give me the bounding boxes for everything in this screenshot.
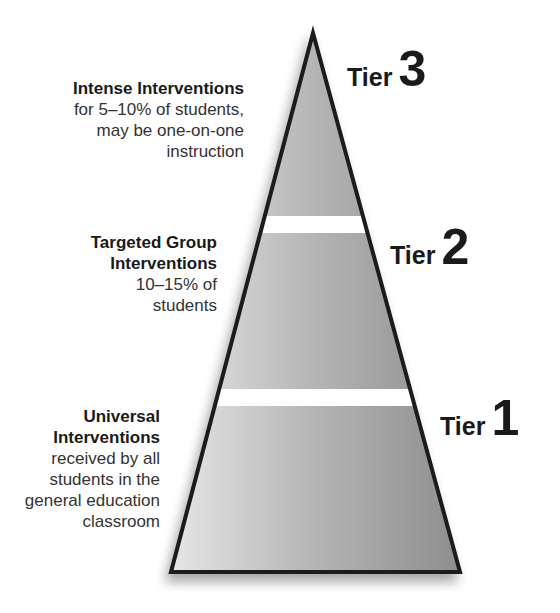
tier-separator-lower [216, 389, 415, 406]
tier2-heading: Interventions [91, 253, 217, 274]
tier3-heading: Intense Interventions [73, 78, 244, 99]
tier2-label: Tier2 [390, 218, 469, 276]
tier-separator-upper [262, 216, 368, 233]
tier3-body-line: may be one-on-one [73, 120, 244, 141]
tier1-number: 1 [491, 390, 519, 446]
tier3-body-line: for 5–10% of students, [73, 99, 244, 120]
tier2-heading: Targeted Group [91, 232, 217, 253]
tier1-body-line: received by all [25, 448, 160, 469]
tier1-heading: Interventions [25, 427, 160, 448]
tier1-heading: Universal [25, 406, 160, 427]
tier1-label: Tier1 [440, 389, 519, 447]
tier1-body-line: general education [25, 490, 160, 511]
tier3-number: 3 [398, 41, 426, 97]
tier2-description: Targeted Group Interventions 10–15% of s… [91, 232, 217, 316]
tier1-body-line: students in the [25, 469, 160, 490]
tier2-body-line: students [91, 295, 217, 316]
tier3-label: Tier3 [347, 40, 426, 98]
tier2-body-line: 10–15% of [91, 274, 217, 295]
tier2-number: 2 [441, 219, 469, 275]
tier3-body-line: instruction [73, 141, 244, 162]
tier1-description: Universal Interventions received by all … [25, 406, 160, 532]
tier1-body-line: classroom [25, 511, 160, 532]
tier3-description: Intense Interventions for 5–10% of stude… [73, 78, 244, 162]
